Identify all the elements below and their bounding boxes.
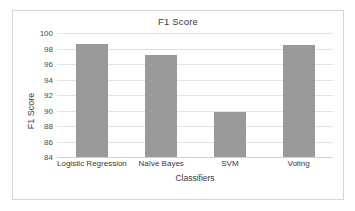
chart-title: F1 Score	[13, 16, 343, 27]
y-axis-title: F1 Score	[26, 81, 36, 141]
y-axis-tick-label: 84	[44, 153, 53, 162]
y-axis-tick-label: 86	[44, 137, 53, 146]
bar[interactable]	[145, 55, 177, 157]
y-axis-tick-label: 88	[44, 122, 53, 131]
x-axis-tick-label: SVM	[196, 159, 265, 168]
bar[interactable]	[76, 44, 108, 157]
bar-series	[57, 33, 333, 157]
bar-slot	[195, 33, 264, 157]
plot-area: 8486889092949698100	[57, 33, 333, 157]
x-axis-title: Classifiers	[57, 173, 333, 183]
y-axis-tick-label: 94	[44, 75, 53, 84]
bar-slot	[264, 33, 333, 157]
bar-slot	[126, 33, 195, 157]
y-axis-tick-label: 90	[44, 106, 53, 115]
y-axis-tick-label: 100	[40, 29, 53, 38]
gridline	[57, 157, 333, 158]
x-axis-tick-label: Logistic Regression	[57, 159, 127, 168]
x-axis-tick-label: Naïve Bayes	[127, 159, 196, 168]
bar-slot	[57, 33, 126, 157]
bar[interactable]	[283, 45, 315, 157]
bar[interactable]	[214, 112, 246, 157]
x-axis-tick-label: Voting	[264, 159, 333, 168]
y-axis-tick-label: 92	[44, 91, 53, 100]
y-axis-tick-label: 96	[44, 60, 53, 69]
x-axis-tick-labels: Logistic RegressionNaïve BayesSVMVoting	[57, 159, 333, 168]
y-axis-tick-label: 98	[44, 44, 53, 53]
chart-frame: F1 Score F1 Score 8486889092949698100 Lo…	[12, 10, 344, 200]
